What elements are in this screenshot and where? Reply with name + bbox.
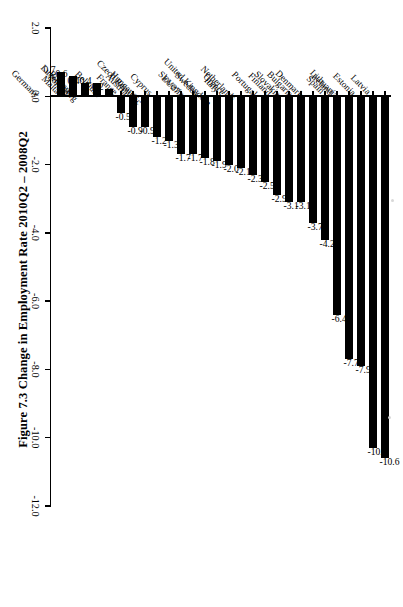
bar	[261, 96, 268, 181]
bar	[237, 96, 244, 168]
bar	[213, 96, 220, 161]
chart-canvas: 2.00.0-2.0-4.0-6.0-8.0-10.0-12.0 -10.6-1…	[0, 0, 403, 535]
value-axis-line	[50, 28, 51, 506]
category-tick	[372, 91, 373, 96]
chart-plot-area: 2.00.0-2.0-4.0-6.0-8.0-10.0-12.0 -10.6-1…	[0, 0, 403, 535]
bar	[285, 96, 292, 202]
value-tick	[45, 96, 51, 97]
value-tick-label: -12.0	[30, 483, 41, 529]
bar-value-label: -3.7	[308, 220, 323, 231]
bar	[297, 96, 304, 202]
value-tick	[45, 164, 51, 165]
value-tick	[45, 27, 51, 28]
value-tick-label: -4.0	[30, 210, 41, 256]
category-tick	[168, 91, 169, 96]
bar-value-label: -10.6	[380, 456, 400, 467]
bar	[249, 96, 256, 175]
value-tick-label: -10.0	[30, 415, 41, 461]
scan-artifact	[391, 199, 394, 202]
bar	[321, 96, 328, 239]
category-tick	[312, 91, 313, 96]
bar	[225, 96, 232, 164]
category-tick	[384, 91, 385, 96]
bar-value-label: -1.2	[152, 135, 167, 146]
bar-value-label: -10.3	[368, 445, 388, 456]
bar-value-label: -4.2	[320, 237, 335, 248]
bar-value-label: -0.5	[116, 111, 131, 122]
value-tick	[45, 437, 51, 438]
category-tick	[84, 91, 85, 96]
value-tick	[45, 505, 51, 506]
bar	[333, 96, 340, 315]
bar-value-label: -1.7	[176, 152, 191, 163]
bar	[369, 96, 376, 448]
value-tick-label: -8.0	[30, 346, 41, 392]
bar-value-label: -2.9	[272, 193, 287, 204]
value-tick	[45, 369, 51, 370]
value-tick-label: 2.0	[30, 5, 41, 51]
bar-value-label: -7.7	[344, 357, 359, 368]
value-tick-label: -2.0	[30, 142, 41, 188]
scan-artifact	[388, 416, 391, 419]
value-tick	[45, 232, 51, 233]
bar-value-label: -6.4	[332, 312, 347, 323]
category-tick	[156, 91, 157, 96]
bar	[357, 96, 364, 366]
bar-value-label: -0.9	[128, 125, 143, 136]
bar	[381, 96, 388, 458]
value-tick	[45, 300, 51, 301]
figure-container: Figure 7.3 Change in Employment Rate 201…	[0, 0, 403, 607]
category-tick	[240, 91, 241, 96]
bar	[189, 96, 196, 154]
value-tick-label: -6.0	[30, 278, 41, 324]
